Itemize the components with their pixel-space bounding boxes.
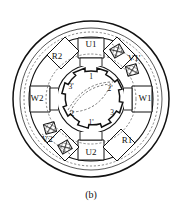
magnet-upper-right-b <box>125 64 138 77</box>
stator-shoe-top <box>80 58 102 66</box>
magnet-lower-left-a <box>43 122 56 135</box>
figure-container: U1 V1' W1 R1 U2 V2' W2 R2 1 2' 3 1' 2 3'… <box>0 0 180 217</box>
stator-shoe-left <box>50 88 58 110</box>
stator-shoe-right <box>124 88 132 110</box>
rotor-label-2: 2 <box>70 109 74 118</box>
stator-label-w1: W1 <box>139 93 152 103</box>
stator-label-u1: U1 <box>86 39 97 49</box>
stator-label-r1: R1 <box>122 135 133 145</box>
rotor-label-1p: 1' <box>88 118 94 127</box>
stator-label-v1p: V1' <box>128 53 141 63</box>
stator-shoe-bottom <box>80 132 102 140</box>
rotor-label-1: 1 <box>89 72 93 81</box>
stator-label-r2: R2 <box>52 51 63 61</box>
rotor-label-3p: 3' <box>68 82 74 91</box>
stator-label-v2p: V2' <box>42 134 55 144</box>
rotor-label-2p: 2' <box>107 84 113 93</box>
rotor-label-3: 3 <box>110 108 114 117</box>
figure-caption: (b) <box>85 189 97 201</box>
stator-label-w2: W2 <box>31 93 44 103</box>
stator-label-u2: U2 <box>86 147 97 157</box>
motor-cross-section-diagram: U1 V1' W1 R1 U2 V2' W2 R2 1 2' 3 1' 2 3'… <box>0 0 180 217</box>
